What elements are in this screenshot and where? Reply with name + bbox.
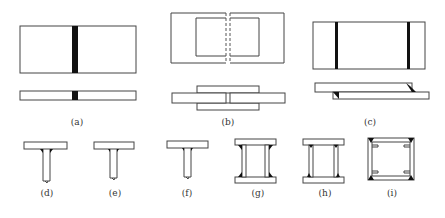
panel-a [20,26,136,100]
web-left [309,145,313,177]
panel-i [368,138,414,180]
weld-section [72,91,78,100]
panel-h [303,139,344,183]
bottom-flange [235,177,276,183]
fillet-weld [269,172,273,177]
label-c: (c) [364,117,376,127]
panel-d [24,142,67,183]
fillet-weld [238,145,242,150]
weld-bead [72,26,78,73]
fillet-weld [40,149,43,153]
label-h: (h) [319,188,332,198]
flange [24,142,67,149]
weld-line [407,22,410,69]
main-plate-left [172,93,226,103]
flange [94,142,134,149]
label-g: (g) [252,188,265,198]
lower-plate [333,92,429,99]
label-i: (i) [387,188,397,198]
flange [167,141,208,148]
weld-line [335,22,338,69]
web [110,149,117,178]
cover-bottom [197,103,259,110]
panel-g [235,139,276,183]
cover-top [197,86,259,93]
bottom-flange [303,177,344,183]
web-left [242,145,246,177]
panel-c [313,22,429,99]
panel-e [94,142,134,180]
label-f: (f) [182,188,192,198]
cover-plate-right [230,18,259,56]
label-b: (b) [222,117,235,127]
upper-plate [315,83,412,92]
web-right [265,145,269,177]
top-flange [235,139,276,145]
panel-f [167,141,208,179]
cover-plate-left [196,18,226,56]
weld-joint-diagram: (a) (b) (c) [0,0,445,218]
fillet-weld [269,145,273,150]
panel-b [171,13,285,110]
fillet-weld [50,149,53,153]
label-e: (e) [109,188,121,198]
label-a: (a) [71,117,83,127]
web [43,149,50,181]
top-flange [303,139,344,145]
web-right [334,145,338,177]
label-d: (d) [41,188,54,198]
web [184,148,191,177]
fillet-weld [238,172,242,177]
main-plate-right [230,93,285,103]
